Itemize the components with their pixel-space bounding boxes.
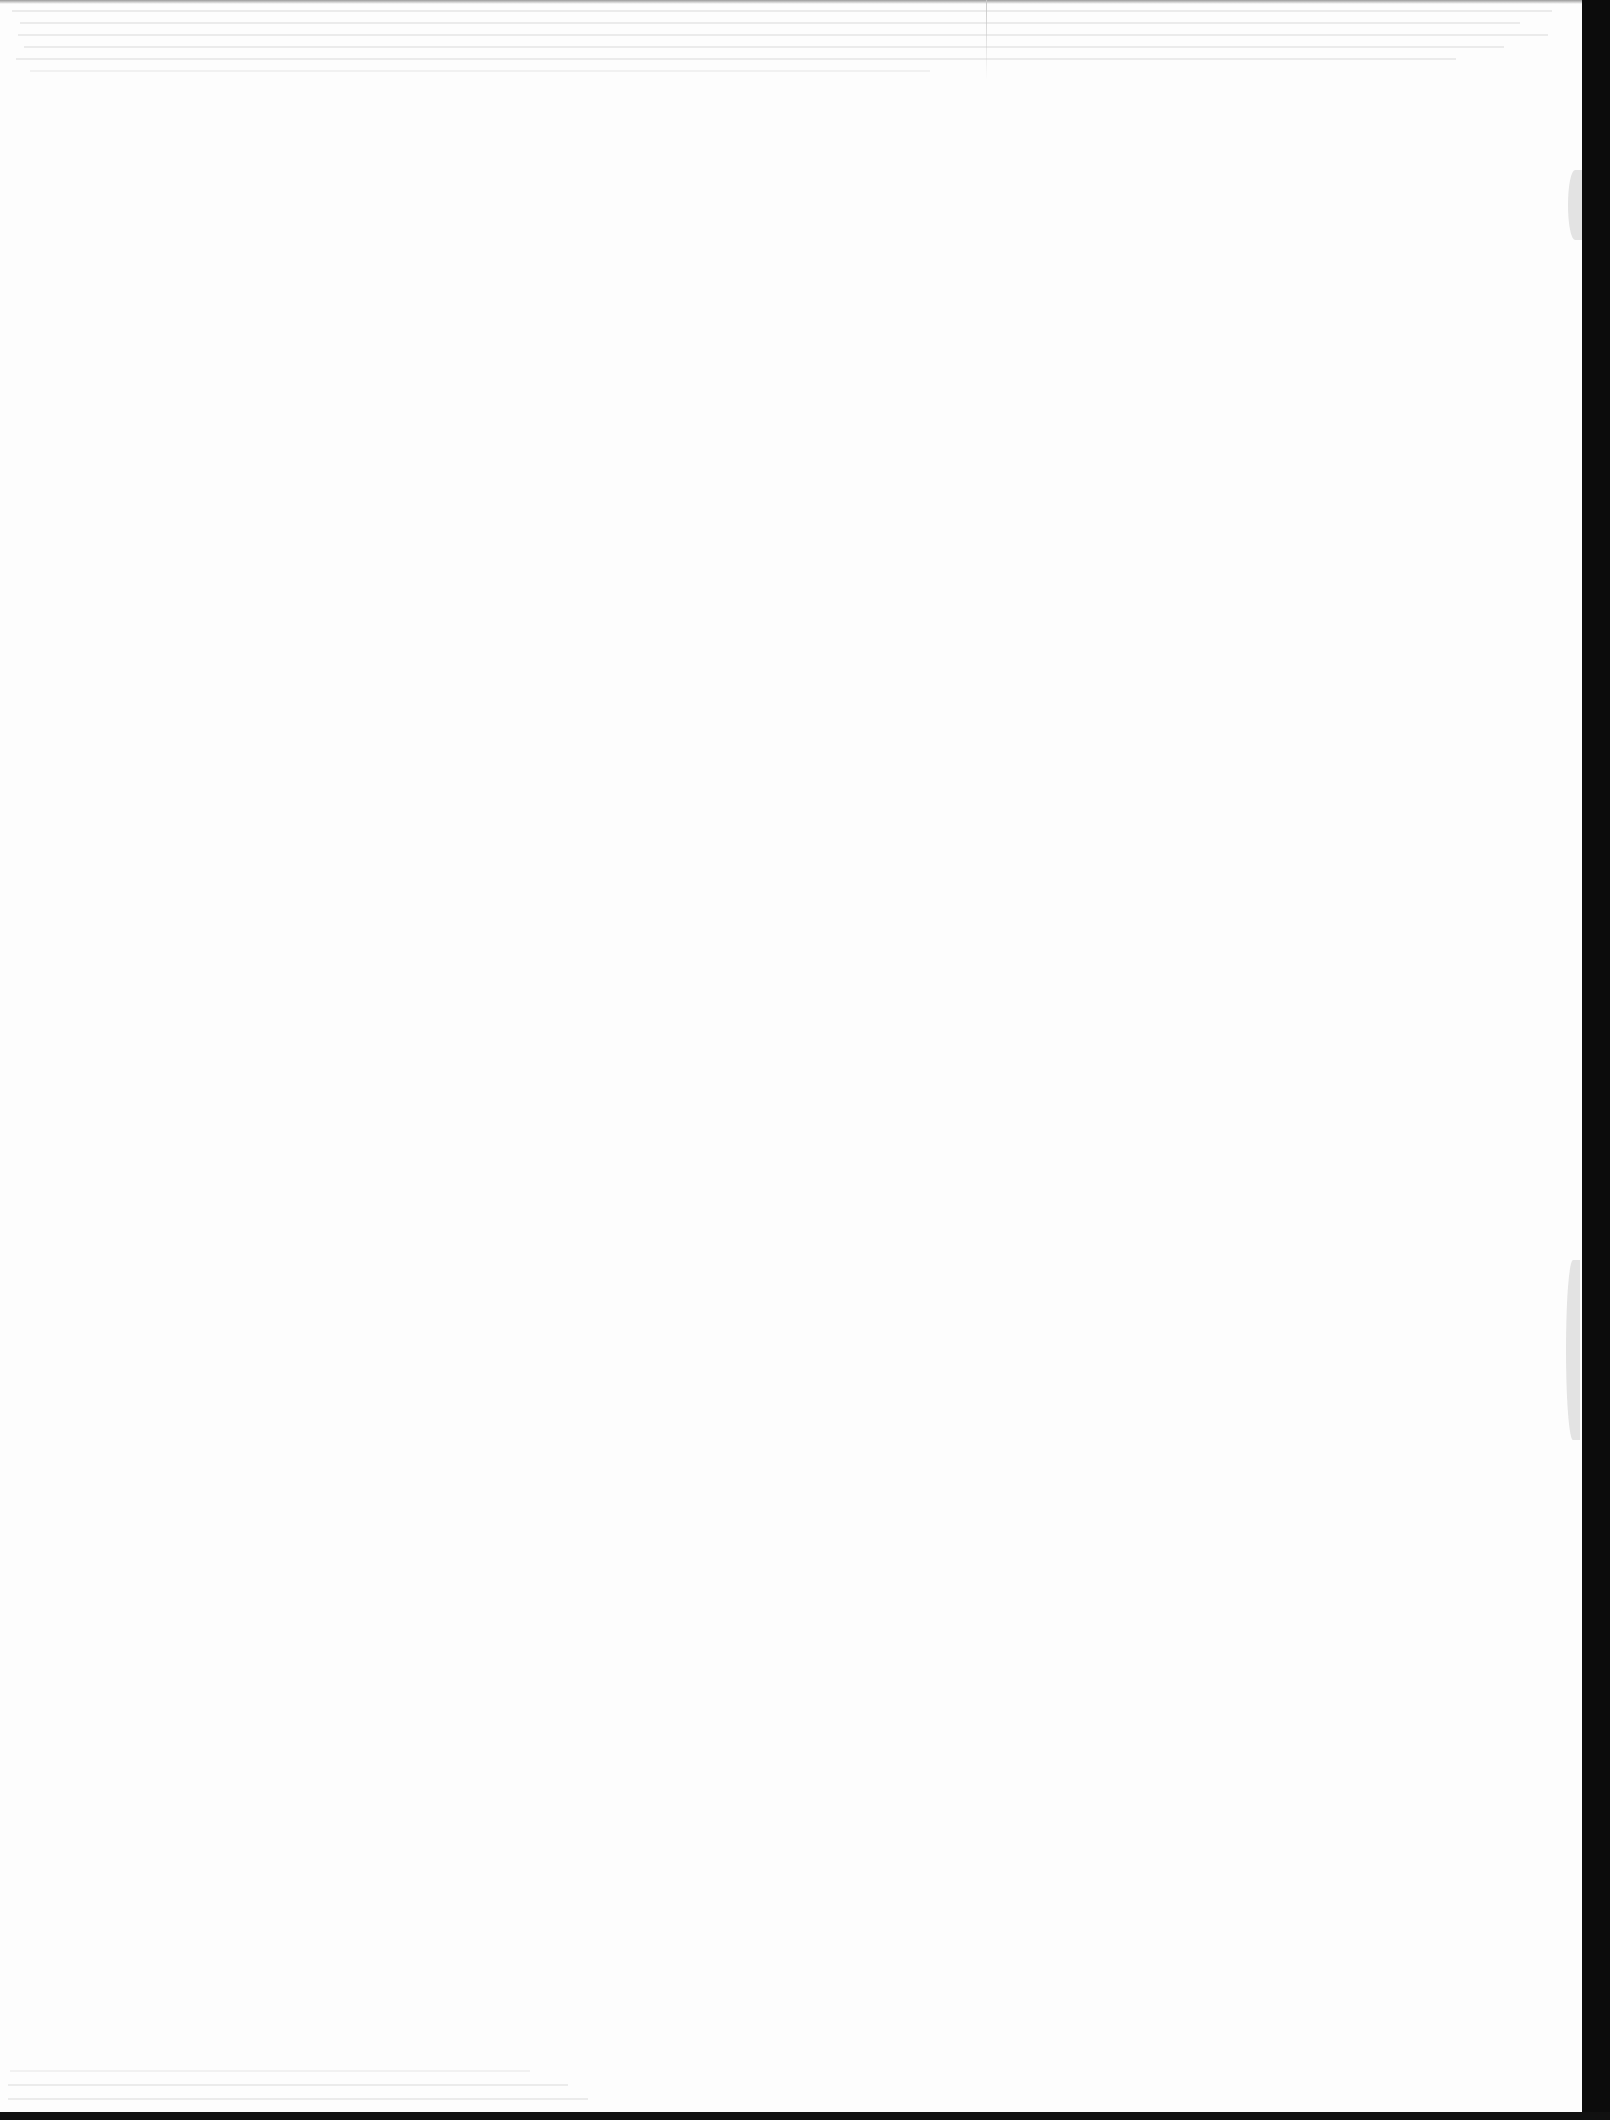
scanner-right-edge — [1582, 0, 1610, 2120]
scanner-bottom-edge — [0, 2112, 1610, 2120]
crease-line — [986, 0, 987, 80]
edge-smudge — [1568, 170, 1582, 240]
edge-smudge — [1566, 1260, 1580, 1440]
top-edge-shadow — [0, 0, 1582, 4]
blank-page — [0, 0, 1582, 2112]
